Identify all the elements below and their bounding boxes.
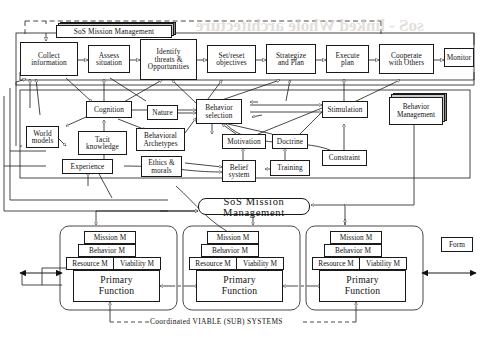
vs2-viability-m[interactable]: Viability M bbox=[237, 257, 284, 270]
node-ethics-and-morals-label: Ethics &morals bbox=[148, 159, 175, 174]
process-execute-plan-label: Executeplan bbox=[335, 52, 359, 67]
process-collect-information-label: Collectinformation bbox=[31, 52, 67, 67]
process-strategize-and-plan-label: Strategizeand Plan bbox=[276, 52, 306, 67]
node-ethics-and-morals[interactable]: Ethics &morals bbox=[141, 156, 182, 177]
vs1-viability-m[interactable]: Viability M bbox=[114, 257, 161, 270]
vs3-mission-m[interactable]: Mission M bbox=[330, 231, 382, 244]
sos-mission-management-top-label: SoS Mission Management bbox=[56, 25, 172, 38]
node-doctrine-label: Doctrine bbox=[277, 138, 303, 145]
node-motivation-label: Motivation bbox=[227, 138, 260, 145]
sos-mission-management-top-card[interactable]: SoS Mission Management bbox=[56, 22, 176, 38]
vs1-resource-m[interactable]: Resource M bbox=[66, 257, 114, 270]
form-box[interactable]: Form bbox=[441, 237, 473, 252]
node-training[interactable]: Training bbox=[270, 160, 310, 176]
diagram-canvas: soS - linked Whole architecture bbox=[0, 0, 490, 342]
process-execute-plan[interactable]: Executeplan bbox=[326, 45, 369, 73]
node-behavior-selection-label: Behaviorselection bbox=[205, 104, 233, 119]
vs1-resource-viability-row: Resource M Viability M bbox=[66, 257, 161, 270]
vs3-behavior-m[interactable]: Behavior M bbox=[324, 244, 382, 257]
vs3-resource-viability-row: Resource M Viability M bbox=[312, 257, 407, 270]
node-nature-label: Nature bbox=[152, 109, 172, 116]
node-experience-label: Experience bbox=[71, 163, 105, 170]
vs2-behavior-m[interactable]: Behavior M bbox=[201, 244, 259, 257]
vs1-mission-m[interactable]: Mission M bbox=[84, 231, 136, 244]
vs3-behavior-m-label: Behavior M bbox=[335, 247, 371, 254]
process-identify-threats-label: Identifythreats &Opportunities bbox=[148, 48, 189, 70]
vs2-resource-m[interactable]: Resource M bbox=[189, 257, 237, 270]
process-monitor[interactable]: Monitor bbox=[444, 48, 474, 67]
behavior-management-card[interactable]: BehaviorManagement bbox=[389, 93, 447, 125]
node-stimulation[interactable]: Stimulation bbox=[322, 101, 368, 118]
node-world-models[interactable]: Worldmodels bbox=[26, 126, 59, 148]
process-assess-situation-label: Assesssituation bbox=[96, 52, 122, 67]
vs3-viability-m[interactable]: Viability M bbox=[360, 257, 407, 270]
sos-mission-management-bottom[interactable]: SoS Mission Management bbox=[198, 198, 310, 215]
vs3-primary-function-label: PrimaryFunction bbox=[345, 275, 381, 296]
node-cognition-label: Cognition bbox=[94, 106, 124, 113]
vs1-resource-m-label: Resource M bbox=[72, 259, 107, 268]
vs1-viability-m-label: Viability M bbox=[120, 259, 154, 268]
vs2-primary-function-label: PrimaryFunction bbox=[222, 275, 258, 296]
process-assess-situation[interactable]: Assesssituation bbox=[88, 45, 130, 73]
process-identify-threats[interactable]: Identifythreats &Opportunities bbox=[140, 39, 197, 80]
node-behavioral-archetypes[interactable]: BehavioralArchetypes bbox=[136, 128, 185, 151]
process-set-reset-objectives-label: Set/resetobjectives bbox=[216, 52, 247, 67]
node-world-models-label: Worldmodels bbox=[32, 130, 54, 145]
process-strategize-and-plan[interactable]: Strategizeand Plan bbox=[266, 44, 316, 74]
node-belief-system-label: Beliefsystem bbox=[229, 164, 250, 179]
vs3-resource-m-label: Resource M bbox=[318, 259, 353, 268]
node-training-label: Training bbox=[277, 164, 303, 171]
vs2-primary-function[interactable]: PrimaryFunction bbox=[196, 270, 283, 302]
process-monitor-label: Monitor bbox=[447, 54, 472, 61]
vs3-primary-function[interactable]: PrimaryFunction bbox=[319, 270, 406, 302]
vs1-mission-m-label: Mission M bbox=[94, 234, 127, 241]
process-collect-information[interactable]: Collectinformation bbox=[20, 42, 78, 76]
node-constraint[interactable]: Constraint bbox=[322, 150, 367, 166]
vs2-mission-m-label: Mission M bbox=[217, 234, 250, 241]
node-tacit-knowledge[interactable]: Tacitknowledge bbox=[78, 131, 127, 155]
sos-mission-management-bottom-label: SoS Mission Management bbox=[199, 196, 309, 218]
vs3-resource-m[interactable]: Resource M bbox=[312, 257, 360, 270]
vs2-resource-viability-row: Resource M Viability M bbox=[189, 257, 284, 270]
vs2-viability-m-label: Viability M bbox=[243, 259, 277, 268]
node-doctrine[interactable]: Doctrine bbox=[272, 134, 308, 149]
vs2-behavior-m-label: Behavior M bbox=[212, 247, 248, 254]
vs1-primary-function[interactable]: PrimaryFunction bbox=[73, 270, 160, 302]
node-constraint-label: Constraint bbox=[329, 154, 360, 161]
vs1-behavior-m-label: Behavior M bbox=[89, 247, 125, 254]
process-cooperate-with-others[interactable]: Cooperatewith Others bbox=[379, 44, 434, 74]
form-box-label: Form bbox=[449, 241, 465, 248]
vs3-mission-m-label: Mission M bbox=[340, 234, 373, 241]
node-stimulation-label: Stimulation bbox=[327, 106, 362, 113]
coordinated-viable-systems-caption: Coordinated VIABLE (SUB) SYSTEMS bbox=[150, 317, 283, 326]
vs1-behavior-m[interactable]: Behavior M bbox=[78, 244, 136, 257]
node-tacit-knowledge-label: Tacitknowledge bbox=[86, 136, 119, 151]
node-experience[interactable]: Experience bbox=[62, 159, 113, 174]
node-behavioral-archetypes-label: BehavioralArchetypes bbox=[143, 132, 177, 147]
vs1-primary-function-label: PrimaryFunction bbox=[99, 275, 135, 296]
process-set-reset-objectives[interactable]: Set/resetobjectives bbox=[207, 45, 256, 73]
node-behavior-selection[interactable]: Behaviorselection bbox=[196, 99, 242, 124]
process-cooperate-with-others-label: Cooperatewith Others bbox=[389, 52, 424, 67]
node-motivation[interactable]: Motivation bbox=[222, 134, 266, 149]
vs2-resource-m-label: Resource M bbox=[195, 259, 230, 268]
behavior-management-label: BehaviorManagement bbox=[389, 97, 443, 125]
node-nature[interactable]: Nature bbox=[147, 105, 178, 120]
node-belief-system[interactable]: Beliefsystem bbox=[222, 160, 256, 182]
node-cognition[interactable]: Cognition bbox=[86, 101, 132, 118]
vs2-mission-m[interactable]: Mission M bbox=[207, 231, 259, 244]
vs3-viability-m-label: Viability M bbox=[366, 259, 400, 268]
